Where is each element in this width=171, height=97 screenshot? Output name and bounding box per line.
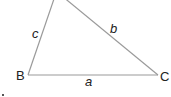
- side-b-label: b: [110, 22, 117, 35]
- vertex-b-label: B: [16, 69, 25, 82]
- side-a-label: a: [85, 75, 92, 88]
- side-b-line: [62, 0, 158, 75]
- side-c-label: c: [32, 27, 39, 40]
- vertex-c-label: C: [160, 70, 169, 83]
- stray-mark: [2, 94, 4, 96]
